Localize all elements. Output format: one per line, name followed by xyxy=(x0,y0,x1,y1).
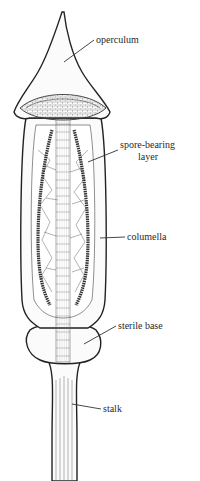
operculum-structure xyxy=(14,12,110,120)
label-layer: layer xyxy=(138,151,159,162)
label-operculum: operculum xyxy=(96,34,139,45)
sporangium-diagram: operculum spore-bearing layer columella … xyxy=(0,0,200,481)
label-columella: columella xyxy=(127,231,167,242)
label-sterile-base: sterile base xyxy=(118,320,163,331)
label-stalk: stalk xyxy=(103,403,122,414)
labels: operculum spore-bearing layer columella … xyxy=(96,34,175,414)
stalk-structure xyxy=(47,358,82,481)
columella-structure xyxy=(56,112,70,362)
label-spore-bearing: spore-bearing xyxy=(120,139,175,150)
